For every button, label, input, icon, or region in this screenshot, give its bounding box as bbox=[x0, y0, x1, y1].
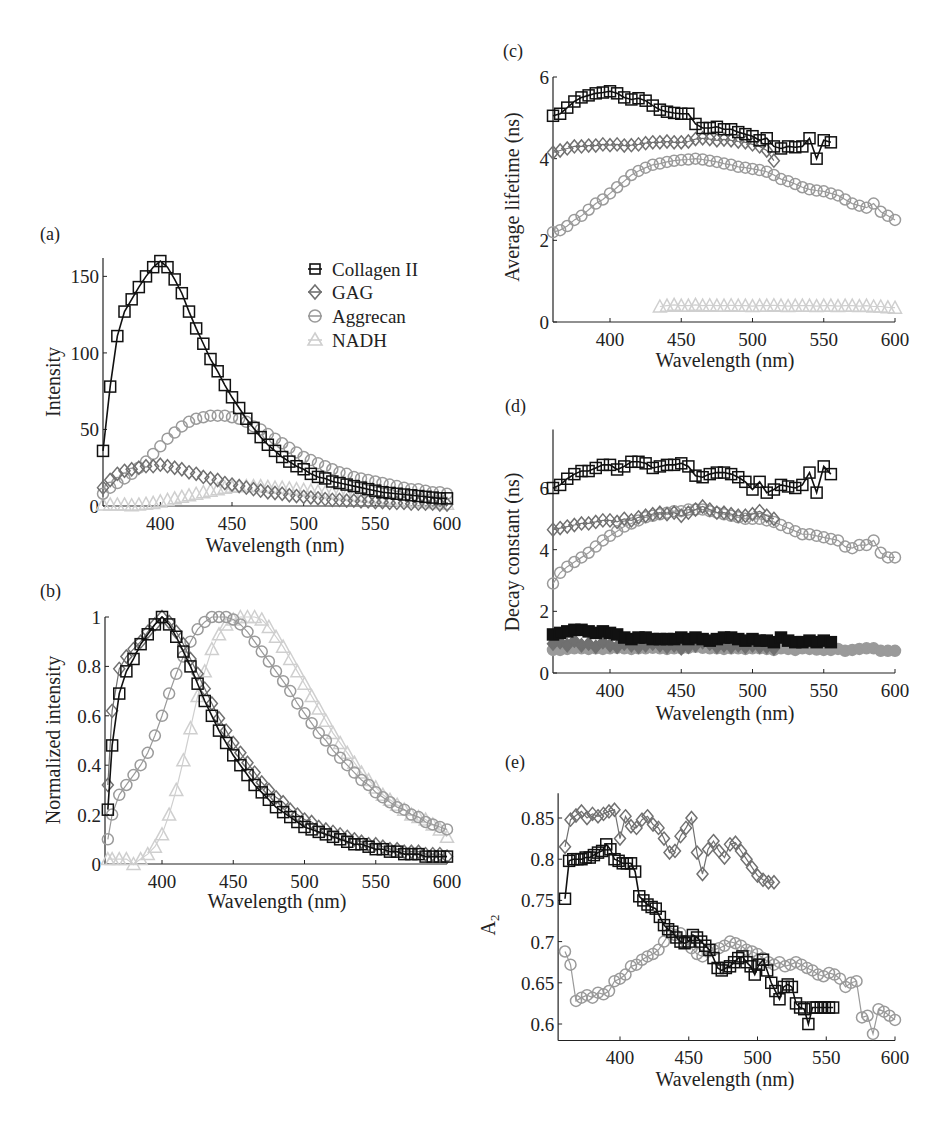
series-collagen-ii-slow- bbox=[548, 456, 837, 498]
x-axis-label-b: Wavelength (nm) bbox=[208, 890, 347, 913]
y-tick-label: 50 bbox=[80, 419, 99, 440]
y-tick-label: 1 bbox=[92, 607, 102, 628]
plot-area-a bbox=[97, 256, 454, 511]
circle-marker bbox=[191, 413, 202, 424]
x-tick-label: 400 bbox=[606, 1047, 635, 1068]
legend: Collagen II GAG Aggrecan NADH bbox=[308, 259, 418, 351]
x-tick-label: 500 bbox=[738, 329, 767, 350]
x-tick-label: 450 bbox=[219, 871, 248, 892]
series-aggrecan bbox=[560, 928, 901, 1040]
x-tick-label: 550 bbox=[810, 680, 839, 701]
panel-label-a: (a) bbox=[40, 224, 60, 245]
plot-area-e bbox=[560, 803, 901, 1039]
panel-d: (d) Decay constant (ns) Wavelength (nm) … bbox=[501, 396, 909, 725]
legend-item-collagen: Collagen II bbox=[308, 259, 418, 280]
triangle-marker-icon bbox=[308, 333, 322, 345]
y-tick-label: 0.6 bbox=[77, 706, 101, 727]
series-nadh bbox=[101, 611, 453, 870]
y-tick-label: 4 bbox=[540, 540, 550, 561]
x-tick-label: 550 bbox=[362, 871, 391, 892]
series-aggrecan bbox=[548, 153, 901, 238]
y-axis-label-e: A2 bbox=[477, 915, 502, 936]
x-tick-label: 500 bbox=[289, 513, 318, 534]
series-line bbox=[108, 617, 447, 857]
x-axis-label-d: Wavelength (nm) bbox=[656, 702, 795, 725]
panel-a: (a) Intensity Wavelength (nm) 4004505005… bbox=[40, 224, 461, 557]
panel-label-b: (b) bbox=[40, 581, 61, 602]
circle-marker bbox=[391, 481, 402, 492]
y-tick-label: 0.75 bbox=[521, 890, 554, 911]
plot-area-d bbox=[548, 456, 901, 656]
legend-label-collagen: Collagen II bbox=[332, 259, 418, 280]
series-line bbox=[103, 261, 447, 498]
x-tick-label: 550 bbox=[361, 513, 390, 534]
x-tick-label: 550 bbox=[810, 329, 839, 350]
series-line bbox=[108, 617, 447, 864]
y-tick-label: 0.4 bbox=[77, 755, 101, 776]
x-axis-label-a: Wavelength (nm) bbox=[206, 534, 345, 557]
axes-d: 4004505005506000246 bbox=[540, 429, 910, 701]
x-tick-label: 500 bbox=[743, 1047, 772, 1068]
y-tick-label: 0.8 bbox=[77, 656, 101, 677]
y-axis-label-c: Average lifetime (ns) bbox=[501, 112, 524, 282]
legend-label-aggrecan: Aggrecan bbox=[332, 306, 406, 327]
y-tick-label: 0.7 bbox=[530, 932, 554, 953]
panel-e: (e) A2 Wavelength (nm) 4004505005506000.… bbox=[477, 752, 909, 1091]
panel-c: (c) Average lifetime (ns) Wavelength (nm… bbox=[501, 41, 909, 372]
x-tick-label: 400 bbox=[148, 871, 177, 892]
x-tick-label: 450 bbox=[667, 329, 696, 350]
legend-item-gag: GAG bbox=[308, 282, 373, 303]
panel-label-d: (d) bbox=[505, 396, 526, 417]
triangle-marker bbox=[125, 499, 138, 511]
y-tick-label: 0 bbox=[540, 663, 550, 684]
series-collagen-ii bbox=[548, 86, 837, 164]
x-tick-label: 600 bbox=[433, 513, 462, 534]
y-axis-label-a: Intensity bbox=[42, 347, 65, 417]
y-tick-label: 0.85 bbox=[521, 808, 554, 829]
x-tick-label: 550 bbox=[812, 1047, 841, 1068]
x-axis-label-c: Wavelength (nm) bbox=[656, 349, 795, 372]
y-tick-label: 2 bbox=[540, 601, 550, 622]
y-tick-label: 0 bbox=[92, 854, 102, 875]
y-tick-label: 6 bbox=[540, 67, 550, 88]
y-tick-label: 0.6 bbox=[530, 1014, 554, 1035]
square-marker bbox=[825, 637, 836, 648]
x-tick-label: 500 bbox=[290, 871, 319, 892]
axes-e: 4004505005506000.60.650.70.750.80.85 bbox=[521, 793, 909, 1068]
y-tick-label: 0.2 bbox=[77, 805, 101, 826]
series-collagen-ii bbox=[560, 839, 839, 1030]
x-tick-label: 600 bbox=[433, 871, 462, 892]
legend-item-nadh: NADH bbox=[308, 330, 387, 351]
y-axis-label-d: Decay constant (ns) bbox=[501, 473, 524, 632]
series-gag bbox=[560, 803, 780, 889]
x-tick-label: 600 bbox=[881, 1047, 910, 1068]
x-tick-label: 400 bbox=[596, 329, 625, 350]
x-tick-label: 600 bbox=[881, 329, 910, 350]
x-tick-label: 450 bbox=[667, 680, 696, 701]
y-axis-label-b: Normalized intensity bbox=[42, 656, 65, 824]
y-tick-label: 100 bbox=[71, 343, 100, 364]
series-nadh bbox=[653, 298, 901, 313]
x-tick-label: 450 bbox=[675, 1047, 704, 1068]
legend-label-nadh: NADH bbox=[332, 330, 387, 351]
x-tick-label: 500 bbox=[738, 680, 767, 701]
x-tick-label: 450 bbox=[218, 513, 247, 534]
panel-label-e: (e) bbox=[505, 752, 525, 773]
series-line bbox=[108, 617, 447, 857]
circle-marker bbox=[219, 410, 230, 421]
circle-marker bbox=[890, 645, 901, 656]
x-tick-label: 600 bbox=[881, 680, 910, 701]
panel-b: (b) Normalized intensity Wavelength (nm)… bbox=[40, 581, 461, 913]
y-tick-label: 0.65 bbox=[521, 973, 554, 994]
circle-marker bbox=[313, 458, 324, 469]
panel-label-c: (c) bbox=[503, 41, 523, 62]
circle-marker bbox=[162, 433, 173, 444]
legend-label-gag: GAG bbox=[332, 282, 373, 303]
figure: (a) Intensity Wavelength (nm) 4004505005… bbox=[0, 0, 951, 1136]
circle-marker bbox=[169, 427, 180, 438]
plot-area-b bbox=[101, 611, 453, 870]
x-tick-label: 400 bbox=[596, 680, 625, 701]
y-tick-label: 0 bbox=[540, 312, 550, 333]
circle-marker bbox=[320, 461, 331, 472]
legend-item-aggrecan: Aggrecan bbox=[308, 306, 406, 327]
